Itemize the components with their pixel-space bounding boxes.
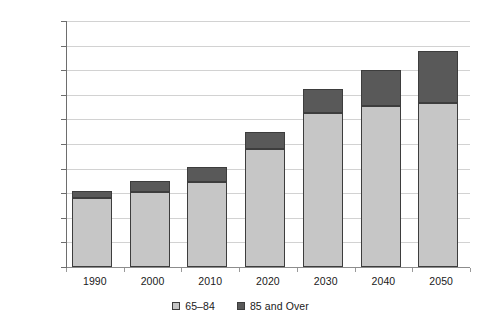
bar-segment-85-and-over bbox=[303, 89, 343, 114]
legend-item-85-and-over[interactable]: 85 and Over bbox=[237, 300, 309, 312]
x-tick bbox=[470, 268, 471, 272]
y-tick-30000 bbox=[61, 193, 66, 194]
plot-area bbox=[66, 21, 470, 267]
x-tick-label-2030: 2030 bbox=[297, 275, 355, 287]
x-tick bbox=[239, 268, 240, 272]
bar-2020[interactable] bbox=[245, 132, 285, 267]
bar-segment-65-84 bbox=[72, 198, 112, 267]
bar-segment-65-84 bbox=[361, 106, 401, 267]
bar-2010[interactable] bbox=[187, 167, 227, 267]
bar-segment-65-84 bbox=[303, 113, 343, 267]
gridline-100000 bbox=[66, 21, 470, 22]
legend-item-65-84[interactable]: 65–84 bbox=[172, 300, 215, 312]
x-tick bbox=[124, 268, 125, 272]
bar-segment-85-and-over bbox=[361, 70, 401, 106]
gridline-70000 bbox=[66, 95, 470, 96]
x-tick bbox=[297, 268, 298, 272]
y-tick-60000 bbox=[61, 119, 66, 120]
x-tick-label-2020: 2020 bbox=[239, 275, 297, 287]
x-tick-label-2040: 2040 bbox=[355, 275, 413, 287]
y-tick-100000 bbox=[61, 21, 66, 22]
bar-segment-65-84 bbox=[187, 182, 227, 267]
x-tick bbox=[355, 268, 356, 272]
bar-1990[interactable] bbox=[72, 191, 112, 267]
y-tick-70000 bbox=[61, 95, 66, 96]
x-tick bbox=[181, 268, 182, 272]
bar-2000[interactable] bbox=[130, 181, 170, 267]
legend-swatch-icon bbox=[172, 302, 180, 310]
legend-label: 85 and Over bbox=[250, 300, 309, 312]
y-tick-40000 bbox=[61, 169, 66, 170]
bar-2030[interactable] bbox=[303, 89, 343, 267]
bar-segment-65-84 bbox=[245, 149, 285, 267]
gridline-baseline-0 bbox=[66, 267, 470, 268]
y-axis bbox=[66, 21, 67, 268]
x-tick-label-2050: 2050 bbox=[412, 275, 470, 287]
bar-segment-85-and-over bbox=[187, 167, 227, 182]
y-tick-10000 bbox=[61, 242, 66, 243]
x-tick bbox=[412, 268, 413, 272]
legend-swatch-icon bbox=[237, 302, 245, 310]
bar-segment-85-and-over bbox=[130, 181, 170, 192]
bar-2040[interactable] bbox=[361, 70, 401, 267]
y-tick-90000 bbox=[61, 46, 66, 47]
y-tick-50000 bbox=[61, 144, 66, 145]
gridline-60000 bbox=[66, 119, 470, 120]
chart-legend: 65–84 85 and Over bbox=[0, 300, 481, 312]
x-tick-label-2000: 2000 bbox=[124, 275, 182, 287]
bar-segment-65-84 bbox=[130, 192, 170, 267]
y-tick-80000 bbox=[61, 70, 66, 71]
x-tick-label-2010: 2010 bbox=[181, 275, 239, 287]
gridline-80000 bbox=[66, 70, 470, 71]
bar-2050[interactable] bbox=[418, 51, 458, 268]
legend-label: 65–84 bbox=[185, 300, 215, 312]
bar-segment-85-and-over bbox=[72, 191, 112, 198]
x-tick bbox=[66, 268, 67, 272]
gridline-90000 bbox=[66, 46, 470, 47]
bar-segment-65-84 bbox=[418, 103, 458, 267]
x-tick-label-1990: 1990 bbox=[66, 275, 124, 287]
bar-segment-85-and-over bbox=[245, 132, 285, 149]
bar-segment-85-and-over bbox=[418, 51, 458, 104]
stacked-bar-chart: 100,000 90,000 80,000 70,000 60,000 50,0… bbox=[0, 0, 481, 324]
y-tick-20000 bbox=[61, 218, 66, 219]
